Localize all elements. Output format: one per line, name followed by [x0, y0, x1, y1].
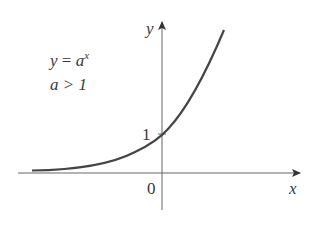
y-axis-label: y [146, 20, 154, 37]
plot-area [0, 0, 318, 229]
exponential-graph: y = ax a > 1 y x 0 1 [0, 0, 318, 229]
origin-label: 0 [147, 180, 156, 197]
equation-label: y = ax [50, 50, 89, 69]
x-axis-label: x [289, 180, 297, 197]
condition-label: a > 1 [50, 76, 87, 93]
y-intercept-label: 1 [142, 126, 151, 143]
